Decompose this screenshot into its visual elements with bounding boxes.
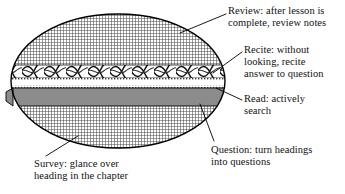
recite-braid-band [8, 65, 228, 78]
read-dotted-top-edge [8, 78, 228, 81]
leader-review-line [180, 14, 226, 33]
label-recite: Recite: without looking, recite answer t… [244, 44, 345, 79]
question-gray-band [8, 88, 228, 106]
label-question: Question: turn headings into questions [211, 144, 345, 168]
label-survey: Survey: glance over heading in the chapt… [34, 158, 194, 182]
ellipse-body [6, 14, 228, 148]
figure-canvas: Review: after lesson is complete, review… [0, 0, 345, 194]
label-review: Review: after lesson is complete, review… [228, 5, 344, 29]
label-read: Read: actively search [244, 93, 340, 117]
